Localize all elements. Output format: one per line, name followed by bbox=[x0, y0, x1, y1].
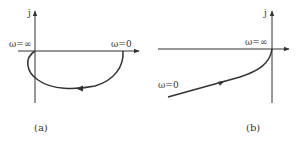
panel-a-nyquist-curve bbox=[28, 51, 123, 88]
nyquist-diagram: j ω=∞ ω=0 (a) j ω=∞ ω=0 (b) bbox=[0, 0, 298, 145]
panel-a-direction-arrow-icon bbox=[76, 86, 83, 92]
panel-a-omega-zero-label: ω=0 bbox=[111, 39, 132, 49]
panel-a-caption: (a) bbox=[34, 122, 48, 133]
panel-b-direction-arrow-icon bbox=[218, 81, 225, 86]
panel-b-omega-inf-label: ω=∞ bbox=[245, 37, 267, 47]
panel-a: j ω=∞ ω=0 (a) bbox=[9, 8, 139, 133]
panel-b-j-label: j bbox=[263, 8, 267, 18]
panel-a-omega-inf-label: ω=∞ bbox=[9, 39, 31, 49]
panel-b-omega-zero-label: ω=0 bbox=[158, 80, 179, 90]
panel-b: j ω=∞ ω=0 (b) bbox=[158, 8, 289, 133]
panel-a-j-label: j bbox=[27, 8, 31, 18]
panel-b-nyquist-curve bbox=[168, 49, 272, 97]
panel-b-caption: (b) bbox=[246, 122, 260, 133]
